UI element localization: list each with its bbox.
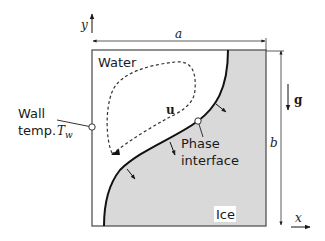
y-axis-label: y [80, 18, 88, 32]
flow-arrowhead [111, 149, 120, 155]
interface-point-marker [195, 118, 201, 124]
dimension-a-label: a [175, 27, 182, 41]
wall-label-line2: temp. [18, 123, 56, 138]
dimension-b-label: b [270, 136, 278, 150]
gravity-label: g [294, 93, 303, 107]
ice-label: Ice [216, 207, 235, 222]
wall-point-marker [89, 124, 95, 130]
x-axis-label: x [295, 211, 302, 225]
velocity-label: u [166, 103, 175, 117]
water-label: Water [98, 55, 137, 70]
interface-label-line1: Phase [181, 136, 220, 151]
diagram-canvas: y x a b g Water Ice u Wall temp. T w Pha… [0, 0, 325, 241]
interface-label-line2: interface [181, 153, 239, 168]
wall-label-line1: Wall [18, 106, 45, 121]
wall-temp-subscript: w [65, 130, 73, 140]
